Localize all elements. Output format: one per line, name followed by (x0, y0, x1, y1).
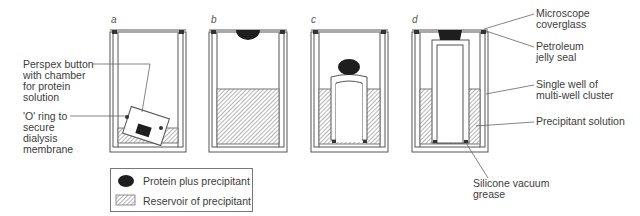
annotation-seal: Petroleum jelly seal (536, 41, 584, 63)
annotation-precipitant: Precipitant solution (536, 116, 625, 127)
well-c (311, 30, 388, 152)
annotation-line: coverglass (536, 19, 590, 30)
annotation-line: solution (23, 92, 94, 103)
annotation-line: membrane (23, 144, 73, 155)
well-a (110, 30, 186, 152)
panel-label-c: c (311, 14, 316, 25)
annotation-line: grease (473, 189, 549, 200)
protein-drop-swatch (118, 175, 134, 187)
annotation-o-ring: 'O' ring to secure dialysis membrane (23, 111, 73, 155)
annotation-line: jelly seal (536, 52, 584, 63)
legend-reservoir-label: Reservoir of precipitant (143, 195, 251, 207)
annotation-grease: Silicone vacuum grease (473, 178, 549, 200)
annotation-coverglass: Microscope coverglass (536, 8, 590, 30)
annotation-perspex-button: Perspex button with chamber for protein … (23, 59, 94, 103)
well-b (209, 30, 287, 152)
panel-label-a: a (111, 14, 117, 25)
legend: Protein plus precipitant Reservoir of pr… (110, 168, 253, 212)
annotation-line: multi-well cluster (536, 90, 614, 101)
legend-protein-label: Protein plus precipitant (143, 175, 250, 187)
panel-label-b: b (211, 14, 217, 25)
annotation-well: Single well of multi-well cluster (536, 79, 614, 101)
panel-label-d: d (412, 14, 418, 25)
well-d (412, 30, 488, 152)
reservoir-hatch-swatch (116, 195, 135, 205)
annotation-line: Precipitant solution (536, 116, 625, 127)
